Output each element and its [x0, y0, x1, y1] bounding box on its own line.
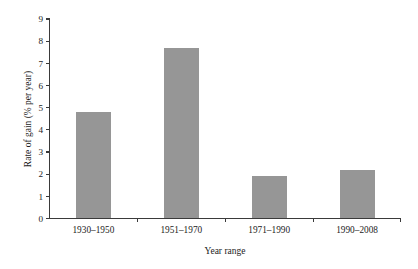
bar	[164, 48, 199, 219]
y-axis-tick-label: 4	[38, 125, 43, 135]
chart-canvas: 0123456789 1930–19501951–19701971–199019…	[0, 0, 418, 269]
bar	[340, 170, 375, 219]
bar-chart-figure: 0123456789 1930–19501951–19701971–199019…	[0, 0, 418, 269]
x-axis-category-label: 1971–1990	[248, 225, 290, 235]
y-axis-tick-label: 3	[38, 147, 43, 157]
x-axis-title: Year range	[205, 246, 246, 256]
bar	[76, 112, 111, 218]
y-axis-tick-label: 5	[38, 103, 43, 113]
y-axis-tick-label: 8	[38, 36, 43, 46]
x-axis-category-label: 1951–1970	[160, 225, 202, 235]
y-axis-tick-label: 1	[38, 192, 43, 202]
x-axis-category-label: 1930–1950	[72, 225, 114, 235]
y-axis-title: Rate of gain (% per year)	[23, 71, 34, 167]
y-axis-tick-label: 0	[38, 214, 43, 224]
y-axis-tick-label: 2	[38, 169, 43, 179]
y-axis-tick-label: 6	[38, 81, 43, 91]
bar	[252, 176, 287, 218]
y-axis-tick-label: 9	[38, 14, 43, 24]
x-axis-category-label: 1990–2008	[336, 225, 378, 235]
y-axis-tick-label: 7	[38, 59, 43, 69]
